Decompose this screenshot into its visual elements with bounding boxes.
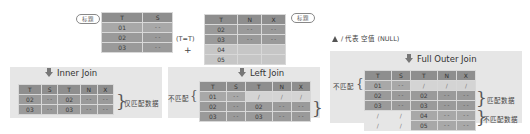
- cell: 02: [58, 95, 81, 105]
- source-table-left: T S 01 - - 02 - - 03 - -: [101, 12, 173, 53]
- cell: 03: [19, 105, 42, 115]
- header-t: T: [19, 85, 42, 95]
- cell: - -: [81, 95, 97, 105]
- warning-icon: [332, 36, 338, 42]
- cell: 02: [200, 102, 227, 112]
- header-t: T: [205, 15, 238, 25]
- null-cell: /: [365, 111, 392, 121]
- header-x: X: [97, 85, 113, 95]
- full-outer-join-title: Full Outer Join: [405, 54, 477, 64]
- cell: 02: [410, 91, 437, 101]
- table-row: 03 - - 03 - - - -: [200, 112, 311, 122]
- table-row: 03 - - - -: [205, 35, 286, 45]
- brace-matched: }: [476, 90, 487, 107]
- full-join-unmatched-label: 不匹配: [333, 81, 354, 91]
- table-row: 02 - - - -: [205, 25, 286, 35]
- cell: - -: [437, 121, 456, 131]
- cell: 04: [205, 45, 238, 55]
- cell: - -: [391, 101, 410, 111]
- cell: - -: [226, 112, 245, 122]
- cell: [262, 55, 286, 65]
- cell: 02: [19, 95, 42, 105]
- header-n: N: [272, 82, 291, 92]
- inner-join-label: Inner Join: [57, 68, 97, 78]
- table-row: / / 05 - - - -: [365, 121, 476, 131]
- cell: - -: [437, 111, 456, 121]
- header-t: T: [245, 82, 272, 92]
- join-condition: (T=T): [176, 35, 194, 43]
- cell: - -: [391, 91, 410, 101]
- header-t: T: [410, 71, 437, 81]
- cell: - -: [456, 121, 475, 131]
- cell: - -: [81, 105, 97, 115]
- cell: 03: [245, 112, 272, 122]
- cell: - -: [456, 101, 475, 111]
- cell: - -: [97, 95, 113, 105]
- null-cell: /: [391, 111, 410, 121]
- inner-join-title: Inner Join: [45, 68, 97, 78]
- cell: - -: [391, 81, 410, 91]
- cell: - -: [97, 105, 113, 115]
- full-outer-join-label: Full Outer Join: [417, 54, 477, 64]
- cell: 04: [410, 111, 437, 121]
- header-x: X: [291, 82, 310, 92]
- cell: - -: [238, 35, 262, 45]
- cell: 03: [205, 35, 238, 45]
- table-row: 01 - - / / /: [200, 92, 311, 102]
- full-outer-join-table: T S T N X 01 - - / / / 02 - - 02 - - - -…: [364, 70, 476, 131]
- plus-sign: +: [184, 45, 192, 55]
- cell: - -: [41, 95, 57, 105]
- cell: 03: [200, 112, 227, 122]
- null-cell: /: [365, 121, 392, 131]
- cell: - -: [291, 112, 310, 122]
- left-join-label: Left Join: [250, 68, 284, 78]
- header-s: S: [41, 85, 57, 95]
- header-t: T: [58, 85, 81, 95]
- null-cell: /: [291, 92, 310, 102]
- cell: 02: [205, 25, 238, 35]
- table-row: 01 - - / / /: [365, 81, 476, 91]
- cell: [238, 45, 262, 55]
- table-row: 01 - -: [102, 23, 173, 33]
- cell: 03: [58, 105, 81, 115]
- cell: - -: [143, 33, 173, 43]
- down-arrow-icon: [238, 68, 246, 77]
- null-legend: / 代表 空值 (NULL): [332, 33, 399, 43]
- left-join-title: Left Join: [238, 68, 284, 78]
- header-x: X: [262, 15, 286, 25]
- null-cell: /: [410, 81, 437, 91]
- table-row: 02 - - 02 - - - -: [200, 102, 311, 112]
- cell: - -: [437, 101, 456, 111]
- brace-unmatched: {: [190, 90, 198, 102]
- cell: - -: [143, 23, 173, 33]
- header-t: T: [365, 71, 392, 81]
- header-s: S: [391, 71, 410, 81]
- cell: [238, 55, 262, 65]
- down-arrow-icon: [405, 54, 413, 63]
- table-row: 02 - - 02 - - - -: [19, 95, 114, 105]
- table-row: 03 - -: [102, 43, 173, 53]
- title-tag-left: 标题: [76, 14, 100, 24]
- title-tag-right: 标题: [291, 13, 315, 23]
- header-t: T: [102, 13, 143, 23]
- table-row: 05: [205, 55, 286, 65]
- left-join-table: T S T N X 01 - - / / / 02 - - 02 - - - -…: [199, 81, 311, 122]
- cell: 01: [102, 23, 143, 33]
- cell: - -: [238, 25, 262, 35]
- brace-matched: }: [312, 100, 323, 117]
- cell: - -: [291, 102, 310, 112]
- cell: 02: [365, 91, 392, 101]
- cell: - -: [456, 111, 475, 121]
- header-n: N: [81, 85, 97, 95]
- null-cell: /: [437, 81, 456, 91]
- cell: - -: [456, 91, 475, 101]
- null-cell: /: [272, 92, 291, 102]
- inner-join-table: T S T N X 02 - - 02 - - - - 03 - - 03 - …: [18, 84, 114, 115]
- cell: 01: [365, 81, 392, 91]
- cell: 05: [410, 121, 437, 131]
- cell: 05: [205, 55, 238, 65]
- cell: - -: [272, 102, 291, 112]
- header-t: T: [200, 82, 227, 92]
- cell: 01: [200, 92, 227, 102]
- header-n: N: [238, 15, 262, 25]
